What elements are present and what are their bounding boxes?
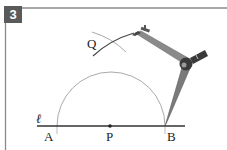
point-p-dot [108, 124, 112, 128]
arc-from-b [92, 32, 126, 52]
label-point-q: Q [87, 36, 97, 51]
label-line-l: ℓ [36, 111, 42, 126]
arc-drawn [93, 33, 134, 56]
label-point-b: B [167, 129, 176, 144]
geometry-figure: ℓ A P B Q [0, 0, 227, 150]
semicircle-arc [57, 72, 165, 126]
compass-icon [132, 25, 208, 126]
label-point-a: A [44, 129, 54, 144]
label-point-p: P [106, 129, 113, 144]
